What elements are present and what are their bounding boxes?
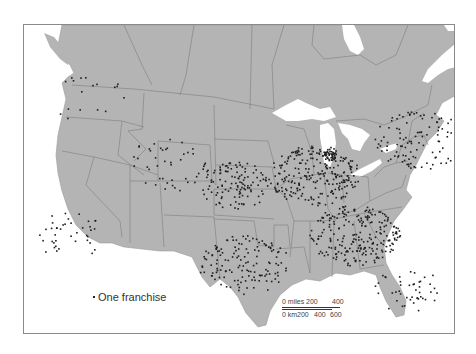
map-frame: One franchise 0 miles 200 400 0 km 200 4… (23, 24, 455, 334)
scale-km-tick-200: 200 (297, 311, 309, 318)
scale-km-row: 0 km 200 400 600 (282, 311, 352, 320)
land-mass (56, 25, 455, 327)
franchise-dot-map (24, 25, 455, 334)
franchise-dot-icon (93, 296, 95, 298)
scale-km-tick-600: 600 (330, 311, 342, 318)
scale-bar-line-miles (282, 307, 340, 308)
scale-bar-line-km (282, 309, 332, 310)
scale-miles-tick-400: 400 (332, 298, 344, 305)
scale-km-tick-400: 400 (314, 311, 326, 318)
legend-label: One franchise (98, 291, 166, 303)
scale-bar: 0 miles 200 400 0 km 200 400 600 (282, 298, 352, 320)
scale-km-label: 0 km (282, 311, 297, 318)
scale-miles-row: 0 miles 200 400 (282, 298, 352, 307)
scale-miles-label: 0 miles (282, 298, 304, 305)
scale-miles-tick-200: 200 (306, 298, 318, 305)
map-legend: One franchise (93, 291, 166, 303)
